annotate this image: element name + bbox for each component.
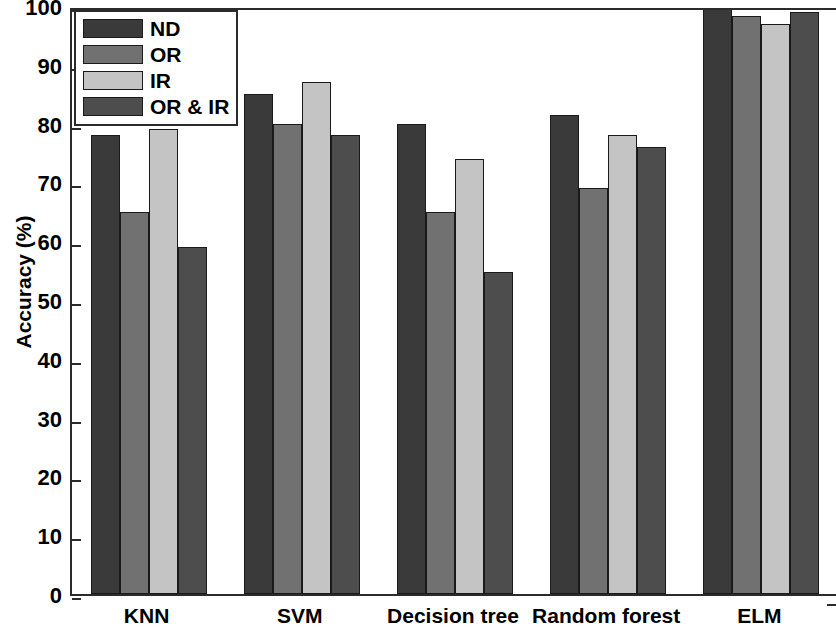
bar <box>608 135 637 594</box>
y-tick-mark-left <box>72 245 81 247</box>
bar <box>302 82 331 594</box>
bar <box>455 159 484 594</box>
y-tick-mark-left <box>72 363 81 365</box>
legend-swatch <box>83 45 143 64</box>
y-tick-mark-left <box>72 539 81 541</box>
x-tick-label: ELM <box>683 604 836 628</box>
y-tick-label: 100 <box>2 0 62 19</box>
x-tick-label: Random forest <box>530 604 683 628</box>
bar <box>637 147 666 594</box>
bar <box>732 16 761 594</box>
bar <box>761 24 790 594</box>
y-tick-label: 0 <box>2 585 62 607</box>
y-tick-label: 10 <box>2 526 62 548</box>
bar <box>579 188 608 594</box>
y-tick-label: 50 <box>2 291 62 313</box>
legend-box: NDORIROR & IR <box>74 10 238 126</box>
y-tick-label: 90 <box>2 56 62 78</box>
bar <box>426 212 455 594</box>
bar <box>790 12 819 594</box>
y-tick-mark-left <box>72 422 81 424</box>
y-tick-mark-left <box>72 480 81 482</box>
y-tick-mark-left <box>72 304 81 306</box>
legend-swatch <box>83 97 143 116</box>
legend-entry: OR & IR <box>83 94 229 119</box>
legend-entry: OR <box>83 42 229 67</box>
legend-swatch <box>83 19 143 38</box>
y-tick-label: 60 <box>2 232 62 254</box>
bar <box>703 10 732 594</box>
x-tick-label: KNN <box>70 604 223 628</box>
bar <box>484 272 513 594</box>
bar <box>331 135 360 594</box>
bar <box>149 129 178 594</box>
bar <box>397 124 426 594</box>
legend-entry: IR <box>83 68 229 93</box>
bar <box>91 135 120 594</box>
y-tick-label: 70 <box>2 173 62 195</box>
y-tick-mark-left <box>72 598 81 600</box>
bar <box>550 115 579 594</box>
y-tick-mark-left <box>72 186 81 188</box>
legend-entry: ND <box>83 16 229 41</box>
y-tick-label: 40 <box>2 350 62 372</box>
x-tick-label: SVM <box>223 604 376 628</box>
bar <box>178 247 207 594</box>
bar <box>244 94 273 594</box>
bar <box>120 212 149 594</box>
bar <box>273 124 302 594</box>
y-tick-label: 30 <box>2 409 62 431</box>
y-tick-label: 80 <box>2 115 62 137</box>
legend-label: IR <box>150 70 171 91</box>
y-axis-tick-labels: 1009080706050403020100 <box>0 0 62 633</box>
y-tick-mark-left <box>72 128 81 130</box>
legend-swatch <box>83 71 143 90</box>
bar-chart-figure: Accuracy (%) 1009080706050403020100 KNNS… <box>0 0 836 633</box>
legend-label: OR & IR <box>150 96 229 117</box>
legend-label: ND <box>150 18 180 39</box>
legend-label: OR <box>150 44 182 65</box>
x-tick-label: Decision tree <box>376 604 529 628</box>
y-tick-label: 20 <box>2 467 62 489</box>
